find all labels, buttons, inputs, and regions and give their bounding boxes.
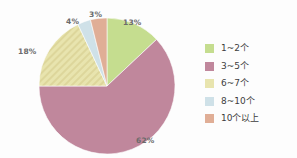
legend-label-8-10: 8~10个 [221,97,255,106]
pie-plot-area: 13% 62% 18% 4% 3% [0,0,190,158]
legend-label-10-plus: 10个以上 [221,114,259,123]
legend-item-10-plus[interactable]: 10个以上 [205,110,297,128]
legend-swatch-icon [205,44,214,53]
legend-label-3-5: 3~5个 [221,62,249,71]
legend-swatch-icon [205,97,214,106]
slice-label-1-2: 13% [123,19,142,27]
slice-label-3-5: 62% [136,137,155,145]
legend-item-6-7[interactable]: 6~7个 [205,75,297,93]
slice-label-10-plus: 3% [89,11,102,19]
legend-swatch-icon [205,114,214,123]
legend-item-3-5[interactable]: 3~5个 [205,58,297,76]
legend-item-1-2[interactable]: 1~2个 [205,40,297,58]
slice-label-6-7: 18% [18,48,37,56]
legend-label-1-2: 1~2个 [221,44,249,53]
legend-label-6-7: 6~7个 [221,79,249,88]
slice-label-8-10: 4% [66,18,79,26]
pie-chart-figure: 13% 62% 18% 4% 3% 1~2个 3~5个 6~7个 8~10个 1… [0,0,297,158]
legend-swatch-icon [205,62,214,71]
legend-item-8-10[interactable]: 8~10个 [205,93,297,111]
pie-svg [0,0,190,158]
chart-legend: 1~2个 3~5个 6~7个 8~10个 10个以上 [205,40,297,128]
legend-swatch-icon [205,79,214,88]
